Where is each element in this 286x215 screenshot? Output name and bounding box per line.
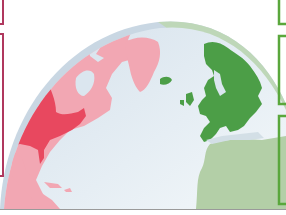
map-canvas [0, 0, 286, 215]
bottom-divider [0, 209, 286, 210]
left-frame-box-middle [0, 34, 3, 176]
right-frame-box-middle [279, 36, 286, 104]
left-frame-box-top [0, 0, 3, 24]
region-africa [196, 136, 286, 209]
right-frame-box-top [279, 0, 286, 24]
globe-map [0, 0, 286, 215]
